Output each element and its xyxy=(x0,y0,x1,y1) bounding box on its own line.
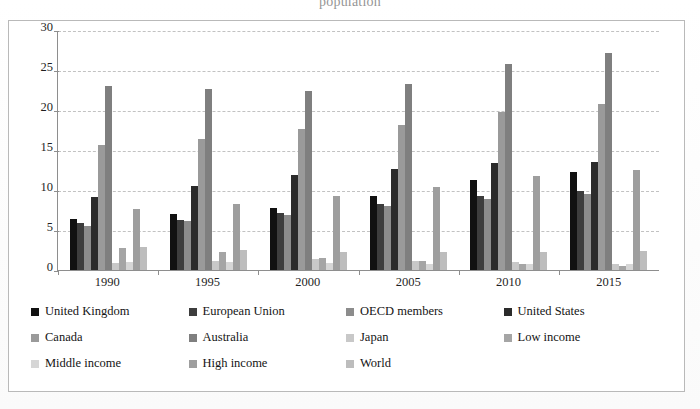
legend-item[interactable]: OECD members xyxy=(346,304,504,319)
bar[interactable] xyxy=(291,175,298,270)
bar[interactable] xyxy=(119,248,126,270)
bar[interactable] xyxy=(498,112,505,270)
bar[interactable] xyxy=(170,214,177,270)
bar[interactable] xyxy=(584,194,591,270)
bar[interactable] xyxy=(533,176,540,270)
x-tick-label: 1995 xyxy=(157,275,257,295)
legend-swatch-icon xyxy=(189,308,197,316)
bar[interactable] xyxy=(305,91,312,270)
bar[interactable] xyxy=(577,191,584,270)
bar[interactable] xyxy=(640,251,647,270)
legend-swatch-icon xyxy=(31,334,39,342)
bar[interactable] xyxy=(98,145,105,270)
bar[interactable] xyxy=(519,264,526,270)
bar[interactable] xyxy=(484,199,491,270)
bar-group-2015 xyxy=(559,31,659,270)
bar[interactable] xyxy=(184,221,191,270)
bar[interactable] xyxy=(270,208,277,270)
bar[interactable] xyxy=(70,219,77,270)
bar[interactable] xyxy=(440,252,447,270)
bar[interactable] xyxy=(419,261,426,270)
legend-label: OECD members xyxy=(360,304,443,319)
bar[interactable] xyxy=(77,223,84,270)
legend-label: European Union xyxy=(203,304,285,319)
bar[interactable] xyxy=(384,206,391,270)
legend-item[interactable]: European Union xyxy=(189,304,347,319)
bar[interactable] xyxy=(526,264,533,270)
bar[interactable] xyxy=(177,220,184,270)
legend-item[interactable]: Australia xyxy=(189,330,347,345)
bar[interactable] xyxy=(619,266,626,270)
bar[interactable] xyxy=(212,261,219,270)
bar[interactable] xyxy=(370,196,377,270)
bar[interactable] xyxy=(312,259,319,270)
bar[interactable] xyxy=(340,252,347,270)
bar-group-2010 xyxy=(459,31,559,270)
bar[interactable] xyxy=(319,258,326,270)
bar[interactable] xyxy=(377,204,384,270)
legend-label: Canada xyxy=(45,330,82,345)
bar[interactable] xyxy=(426,264,433,270)
legend-item[interactable]: Japan xyxy=(346,330,504,345)
legend-item[interactable]: Middle income xyxy=(31,356,189,371)
bar[interactable] xyxy=(219,252,226,270)
y-tick-label: 25 xyxy=(41,61,54,74)
bar[interactable] xyxy=(298,129,305,270)
chart-figure-frame: 051015202530 199019952000200520102015 Un… xyxy=(8,20,685,392)
legend-item[interactable]: Canada xyxy=(31,330,189,345)
bar[interactable] xyxy=(512,262,519,270)
legend-item[interactable]: World xyxy=(346,356,504,371)
bar[interactable] xyxy=(605,53,612,270)
bar[interactable] xyxy=(570,172,577,270)
bar[interactable] xyxy=(226,262,233,270)
bar[interactable] xyxy=(626,264,633,270)
bar[interactable] xyxy=(284,215,291,270)
bar[interactable] xyxy=(612,264,619,270)
legend-label: Low income xyxy=(518,330,581,345)
bar[interactable] xyxy=(277,213,284,270)
bar-group-1995 xyxy=(158,31,258,270)
bar[interactable] xyxy=(505,64,512,270)
legend-swatch-icon xyxy=(346,334,354,342)
bar[interactable] xyxy=(433,187,440,270)
bar[interactable] xyxy=(398,125,405,270)
bar[interactable] xyxy=(240,250,247,270)
bar[interactable] xyxy=(598,104,605,270)
y-tick-label: 5 xyxy=(47,221,53,234)
bar[interactable] xyxy=(470,180,477,270)
legend-item[interactable]: Low income xyxy=(504,330,662,345)
bar[interactable] xyxy=(233,204,240,270)
legend-item[interactable]: High income xyxy=(189,356,347,371)
legend-label: Middle income xyxy=(45,356,121,371)
bar[interactable] xyxy=(391,169,398,270)
x-tick-label: 2000 xyxy=(258,275,358,295)
bar[interactable] xyxy=(191,186,198,270)
legend-label: United Kingdom xyxy=(45,304,129,319)
bar[interactable] xyxy=(133,209,140,270)
bar[interactable] xyxy=(326,263,333,270)
bar[interactable] xyxy=(540,252,547,270)
x-axis-labels: 199019952000200520102015 xyxy=(57,275,659,295)
bar[interactable] xyxy=(140,247,147,270)
bar[interactable] xyxy=(491,163,498,270)
legend-item[interactable]: United Kingdom xyxy=(31,304,189,319)
bar[interactable] xyxy=(405,84,412,270)
bar[interactable] xyxy=(112,263,119,270)
bar[interactable] xyxy=(105,86,112,270)
bar[interactable] xyxy=(198,139,205,270)
bar[interactable] xyxy=(633,170,640,270)
bar[interactable] xyxy=(91,197,98,270)
bar[interactable] xyxy=(126,262,133,270)
bar[interactable] xyxy=(84,226,91,270)
bar-group-2005 xyxy=(359,31,459,270)
bar[interactable] xyxy=(477,196,484,270)
plot-wrapper: 051015202530 199019952000200520102015 xyxy=(9,21,686,286)
legend-item[interactable]: United States xyxy=(504,304,662,319)
bar[interactable] xyxy=(412,261,419,270)
figure-title: population xyxy=(0,0,700,10)
bar-group-1990 xyxy=(58,31,158,270)
bar[interactable] xyxy=(333,196,340,270)
bar[interactable] xyxy=(591,162,598,270)
legend-swatch-icon xyxy=(504,308,512,316)
bar[interactable] xyxy=(205,89,212,270)
